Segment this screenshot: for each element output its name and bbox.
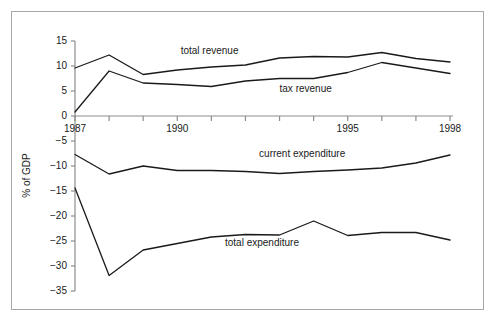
x-axis-tick-label: 1990 [154,124,200,134]
y-axis-tick-label: 15 [33,36,67,46]
y-axis-tick-label: 0 [33,111,67,121]
y-axis-title: % of GDP [21,136,32,216]
y-axis-tick-label: −25 [33,236,67,246]
series-annotation-total-revenue: total revenue [181,45,239,56]
x-axis-tick-label: 1987 [52,124,98,134]
chart-plot-area [0,0,497,323]
y-axis-tick-label: 10 [33,61,67,71]
x-axis-tick-label: 1995 [325,124,371,134]
series-line-tax-revenue [75,63,450,113]
series-line-total-expenditure [75,188,450,276]
y-axis-tick-label: −15 [33,186,67,196]
y-axis-tick-label: −35 [33,286,67,296]
series-annotation-tax-revenue: tax revenue [280,83,332,94]
y-axis-tick-label: −5 [33,136,67,146]
series-line-total-revenue [75,53,450,75]
y-axis-tick-label: 5 [33,86,67,96]
chart-screenshot: % of GDP 151050−5−10−15−20−25−30−3519871… [0,0,497,323]
x-axis-tick-label: 1998 [427,124,473,134]
series-annotation-current-expenditure: current expenditure [259,148,345,159]
y-axis-tick-label: −20 [33,211,67,221]
series-annotation-total-expenditure: total expenditure [225,237,299,248]
y-axis-tick-label: −10 [33,161,67,171]
y-axis-tick-label: −30 [33,261,67,271]
